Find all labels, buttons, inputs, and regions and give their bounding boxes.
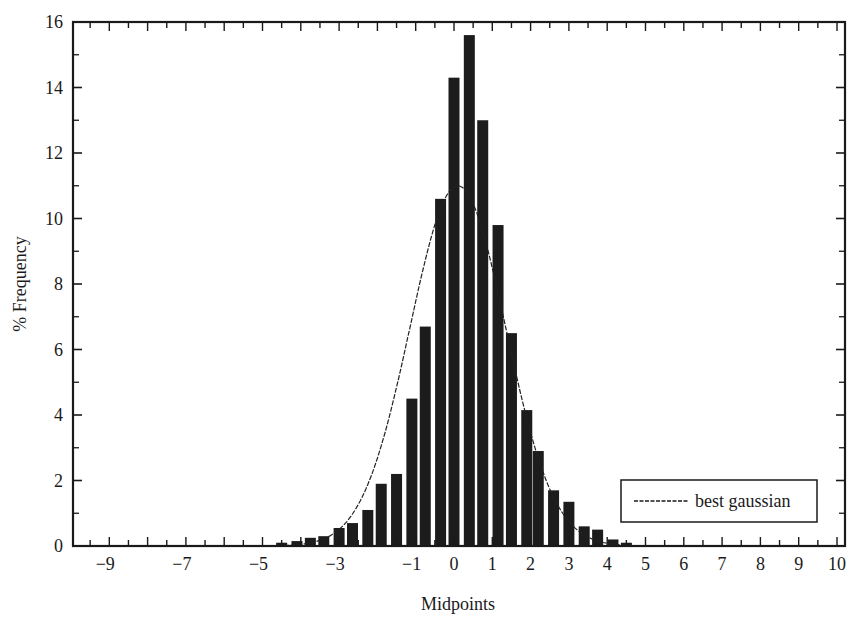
x-tick-label: −5: [249, 554, 268, 574]
histogram-bar: [506, 333, 517, 546]
y-tick-label: 4: [54, 405, 63, 425]
histogram-bar: [477, 120, 488, 546]
y-axis-label: % Frequency: [10, 236, 30, 331]
histogram-bar: [548, 490, 559, 546]
histogram-bar: [435, 199, 446, 546]
histogram-bar: [449, 78, 460, 546]
histogram-bar: [406, 399, 417, 546]
x-tick-label: −7: [172, 554, 191, 574]
y-tick-label: 14: [45, 78, 63, 98]
x-tick-label: 6: [679, 554, 688, 574]
y-tick-label: 8: [54, 274, 63, 294]
histogram-bar: [592, 530, 603, 546]
histogram-bar: [347, 523, 358, 546]
histogram-chart: 0246810121416−9−7−5−3−1012345678910 Midp…: [0, 0, 861, 624]
histogram-bar: [420, 327, 431, 546]
legend: best gaussian: [621, 480, 817, 522]
x-tick-label: −1: [402, 554, 421, 574]
histogram-bar: [376, 484, 387, 546]
y-tick-label: 2: [54, 471, 63, 491]
x-tick-label: 4: [603, 554, 612, 574]
y-tick-label: 16: [45, 12, 63, 32]
histogram-bar: [464, 35, 475, 546]
y-tick-label: 12: [45, 143, 63, 163]
x-axis-label: Midpoints: [421, 594, 495, 614]
x-tick-label: 9: [794, 554, 803, 574]
y-tick-label: 0: [54, 536, 63, 556]
y-tick-label: 6: [54, 340, 63, 360]
legend-label: best gaussian: [695, 491, 790, 511]
x-tick-label: 0: [450, 554, 459, 574]
histogram-bar: [391, 474, 402, 546]
histogram-bar: [493, 225, 504, 546]
x-tick-label: 3: [564, 554, 573, 574]
x-tick-label: 5: [641, 554, 650, 574]
x-tick-label: −9: [96, 554, 115, 574]
x-tick-label: 1: [488, 554, 497, 574]
y-tick-label: 10: [45, 209, 63, 229]
histogram-bar: [533, 451, 544, 546]
x-tick-label: 7: [718, 554, 727, 574]
x-tick-label: 8: [756, 554, 765, 574]
x-tick-label: 10: [828, 554, 846, 574]
x-tick-label: −3: [326, 554, 345, 574]
x-tick-label: 2: [526, 554, 535, 574]
histogram-bar: [362, 510, 373, 546]
